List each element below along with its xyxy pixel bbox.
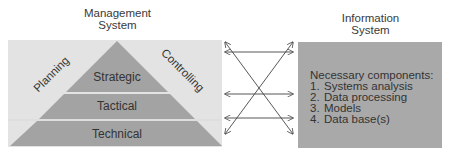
connection-arrows	[225, 42, 293, 134]
level-label-technical: Technical	[92, 127, 142, 141]
components-list: Necessary components: 1. Systems analysi…	[310, 70, 433, 125]
level-label-strategic: Strategic	[93, 70, 140, 84]
component-label: Data base(s)	[324, 114, 390, 125]
component-item: 4. Data base(s)	[310, 114, 433, 125]
level-label-tactical: Tactical	[97, 99, 137, 113]
component-number: 4.	[310, 114, 324, 125]
